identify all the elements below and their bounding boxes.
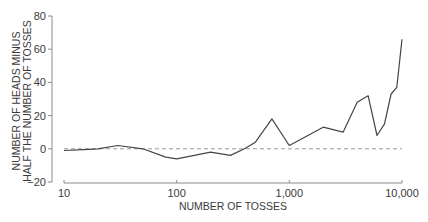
x-tick-label: 10 [58, 187, 70, 199]
y-tick-label: 0 [40, 143, 46, 155]
data-series-line [64, 39, 402, 159]
x-tick-label: 100 [167, 187, 185, 199]
y-tick-label: 20 [34, 110, 46, 122]
y-tick-label: −20 [27, 176, 46, 188]
y-tick-label: 80 [34, 10, 46, 22]
line-chart: NUMBER OF HEADS MINUSHALF THE NUMBER OF … [0, 0, 428, 222]
x-axis-title: NUMBER OF TOSSES [179, 200, 287, 212]
x-tick-label: 10,000 [385, 187, 419, 199]
y-tick-label: 40 [34, 76, 46, 88]
y-axis-title: NUMBER OF HEADS MINUSHALF THE NUMBER OF … [10, 20, 33, 182]
y-axis-title-line: HALF THE NUMBER OF TOSSES [21, 20, 33, 182]
x-axis: 101001,00010,000 [58, 180, 419, 199]
y-tick-label: 60 [34, 43, 46, 55]
x-tick-label: 1,000 [276, 187, 304, 199]
